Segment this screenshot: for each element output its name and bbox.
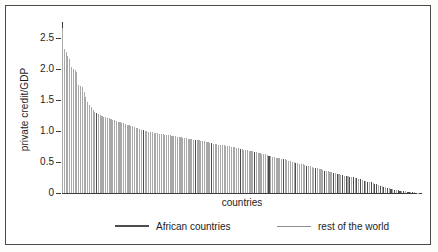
y-axis-tick-label: 2.5 xyxy=(20,33,54,43)
y-axis-tick-mark xyxy=(56,69,61,70)
chart-legend: African countries rest of the world xyxy=(5,218,431,242)
legend-line-icon-rest-of-world xyxy=(277,226,311,227)
legend-line-icon-african xyxy=(115,225,149,227)
y-axis-tick-mark xyxy=(56,131,61,132)
y-axis-tick-label: 2.0 xyxy=(20,64,54,74)
legend-item-african-countries: African countries xyxy=(115,218,230,234)
x-axis-line xyxy=(62,193,422,194)
y-axis-tick-label: 0.5 xyxy=(20,157,54,167)
y-axis-tick-text: 0 xyxy=(24,188,54,198)
legend-item-rest-of-world: rest of the world xyxy=(277,218,389,234)
figure-panel: private credit/GDP 00.51.01.52.02.5 coun… xyxy=(0,0,438,252)
y-axis-tick-label: 0 xyxy=(20,188,54,198)
y-axis-tick-label: 1.0 xyxy=(20,126,54,136)
y-axis-title: private credit/GDP xyxy=(19,25,30,195)
legend-label-african: African countries xyxy=(156,221,230,232)
y-axis-tick-mark xyxy=(56,193,61,194)
x-axis-title: countries xyxy=(62,197,422,208)
y-axis-tick-text: 2.0 xyxy=(24,64,54,74)
bar-african-country xyxy=(419,193,420,194)
y-axis-tick-mark xyxy=(56,162,61,163)
y-axis-tick-text: 1.0 xyxy=(24,126,54,136)
legend-label-rest-of-world: rest of the world xyxy=(318,221,389,232)
y-axis-tick-label: 1.5 xyxy=(20,95,54,105)
plot-area xyxy=(62,22,421,193)
y-axis-tick-mark xyxy=(56,38,61,39)
y-axis-tick-text: 2.5 xyxy=(24,33,54,43)
y-axis-tick-text: 1.5 xyxy=(24,95,54,105)
y-axis-tick-mark xyxy=(56,100,61,101)
y-axis-tick-text: 0.5 xyxy=(24,157,54,167)
bar-series xyxy=(62,22,421,193)
